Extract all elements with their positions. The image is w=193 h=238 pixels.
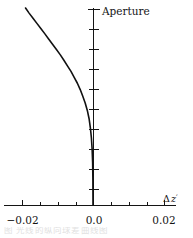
- x-tick-label-0.02: 0.02: [152, 214, 175, 226]
- x-axis-label-delta: Δ: [163, 193, 170, 204]
- aberration-plot: Aperture −0.02 0.0 0.02 Δz′: [0, 0, 193, 238]
- svg-text:Δz′: Δz′: [163, 193, 178, 204]
- x-tick-label-neg0.02: −0.02: [6, 214, 38, 226]
- x-tick-label-0.0: 0.0: [86, 214, 103, 226]
- x-axis-label: Δz′: [163, 193, 178, 204]
- x-axis-label-prime: ′: [176, 193, 178, 202]
- aberration-curve: [26, 8, 93, 205]
- aperture-axis-label: Aperture: [101, 5, 150, 17]
- figure-container: Aperture −0.02 0.0 0.02 Δz′ 图 光线的纵向球差曲线图: [0, 0, 193, 238]
